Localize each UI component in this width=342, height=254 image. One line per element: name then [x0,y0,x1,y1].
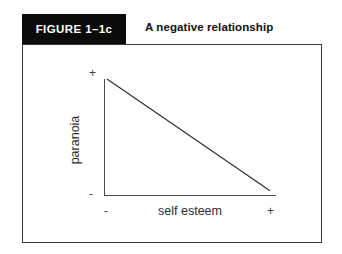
x-axis-low-marker: - [104,205,108,217]
x-axis-line [104,195,276,196]
x-axis-title: self esteem [158,204,222,218]
figure-title: A negative relationship [145,21,273,33]
y-axis-title: paranoia [68,116,82,165]
y-axis-low-marker: - [89,188,93,200]
figure-number-badge: FIGURE 1–1c [22,14,126,44]
y-axis-line [104,79,105,196]
figure-container: FIGURE 1–1c A negative relationship + - … [0,0,342,254]
x-axis-high-marker: + [267,205,274,217]
y-axis-high-marker: + [89,67,96,79]
